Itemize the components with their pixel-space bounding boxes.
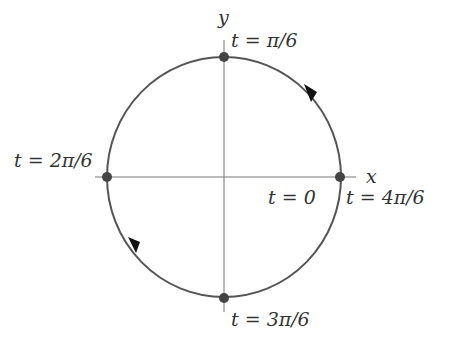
- direction-arrow-upper-right: [304, 84, 317, 102]
- label-right-t0: t = 0: [268, 186, 316, 208]
- point-right: [335, 172, 345, 182]
- point-bottom: [219, 293, 229, 303]
- x-axis-label: x: [366, 165, 377, 187]
- direction-arrow-lower-left: [128, 237, 140, 253]
- y-axis-label: y: [217, 6, 229, 28]
- point-top: [219, 52, 229, 62]
- label-bottom: t = 3π/6: [231, 308, 310, 330]
- label-top: t = π/6: [231, 29, 298, 51]
- label-right-t4: t = 4π/6: [346, 186, 425, 208]
- point-left: [102, 172, 112, 182]
- parametric-circle-diagram: y x t = π/6 t = 2π/6 t = 0 t = 4π/6 t = …: [0, 0, 450, 339]
- label-left: t = 2π/6: [14, 149, 93, 171]
